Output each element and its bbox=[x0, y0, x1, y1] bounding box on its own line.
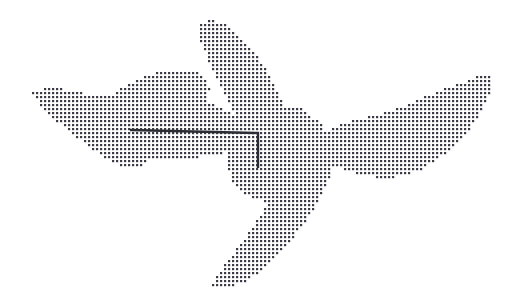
measurement-polyline bbox=[130, 130, 258, 168]
figure-root: Dotted halftone bird silhouette with ove… bbox=[0, 0, 520, 304]
overlay-polyline-layer bbox=[0, 0, 520, 304]
